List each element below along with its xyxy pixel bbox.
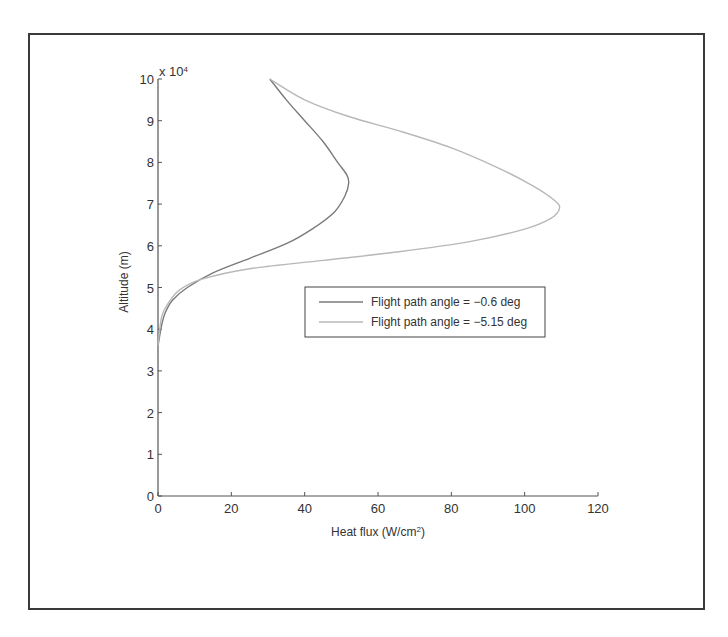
y-tick-label: 8 <box>147 155 154 170</box>
x-tick-label: 80 <box>444 501 458 516</box>
x-tick-label: 20 <box>224 501 238 516</box>
x-tick-label: 0 <box>154 501 161 516</box>
y-tick-label: 7 <box>147 197 154 212</box>
y-tick-label: 5 <box>147 281 154 296</box>
y-tick-label: 0 <box>147 489 154 504</box>
y-tick-label: 4 <box>147 322 154 337</box>
legend: Flight path angle = −0.6 degFlight path … <box>305 287 545 337</box>
y-axis-label: Altitude (m) <box>117 251 131 312</box>
y-tick-label: 3 <box>147 364 154 379</box>
x-tick-label: 60 <box>371 501 385 516</box>
y-tick-label: 9 <box>147 114 154 129</box>
y-axis-multiplier: x 104 <box>159 64 189 79</box>
y-tick-label: 1 <box>147 447 154 462</box>
y-tick-label: 2 <box>147 406 154 421</box>
chart-canvas: 020406080100120012345678910 Flight path … <box>0 0 728 637</box>
x-tick-label: 40 <box>297 501 311 516</box>
x-tick-label: 100 <box>514 501 536 516</box>
y-tick-label: 6 <box>147 239 154 254</box>
legend-entry-label: Flight path angle = −0.6 deg <box>371 295 520 309</box>
y-tick-label: 10 <box>140 72 154 87</box>
legend-entry-label: Flight path angle = −5.15 deg <box>371 315 527 329</box>
x-axis-label: Heat flux (W/cm2) <box>331 525 425 540</box>
x-tick-label: 120 <box>587 501 609 516</box>
